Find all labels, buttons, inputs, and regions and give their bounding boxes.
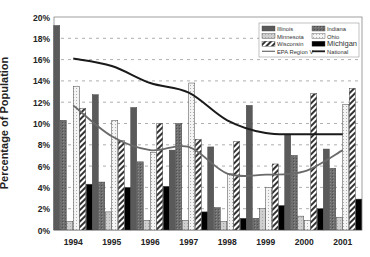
bar-wisconsin [157, 124, 163, 231]
bar-indiana [214, 208, 220, 230]
legend-label: Illinois [277, 26, 293, 32]
bar-illinois [169, 150, 175, 230]
bar-ohio [304, 220, 310, 230]
legend-swatch [262, 26, 275, 31]
bar-indiana [330, 168, 336, 230]
chart: Percentage of Population 0%2%4%6%8%10%12… [0, 0, 370, 257]
bar-minnesota [105, 212, 111, 230]
x-tick-label: 1999 [256, 237, 275, 247]
bar-indiana [137, 162, 143, 230]
y-tick-label: 6% [38, 162, 51, 172]
legend-swatch [262, 41, 275, 46]
bar-michigan [86, 184, 92, 230]
x-tick-label: 2001 [333, 237, 352, 247]
x-tick-label: 1998 [218, 237, 237, 247]
y-tick-label: 4% [38, 183, 51, 193]
bar-michigan [317, 209, 323, 230]
y-tick-label: 14% [33, 76, 50, 86]
bar-ohio [343, 104, 349, 230]
bar-wisconsin [349, 88, 355, 230]
y-tick-label: 2% [38, 204, 51, 214]
bar-wisconsin [234, 142, 240, 230]
bar-wisconsin [118, 141, 124, 230]
bar-ohio [189, 83, 195, 230]
bar-minnesota [144, 220, 150, 230]
bar-minnesota [298, 216, 304, 230]
bar-illinois [54, 26, 60, 230]
bar-indiana [60, 120, 66, 230]
legend-label: Michigan [327, 39, 357, 48]
bar-indiana [291, 155, 297, 230]
bar-wisconsin [311, 94, 317, 230]
legend-swatch [312, 26, 325, 31]
bar-ohio [266, 187, 272, 230]
legend-swatch [312, 34, 325, 39]
y-tick-label: 18% [33, 34, 50, 44]
x-tick-label: 1994 [64, 237, 83, 247]
bar-ohio [227, 174, 233, 230]
legend-swatch [262, 34, 275, 39]
bar-illinois [246, 105, 252, 230]
bar-indiana [99, 182, 105, 230]
legend-swatch [312, 41, 325, 46]
x-tick-label: 1995 [102, 237, 121, 247]
legend-label: Wisconsin [277, 41, 303, 47]
bar-michigan [202, 212, 208, 230]
bar-minnesota [336, 217, 342, 230]
bar-minnesota [182, 220, 188, 230]
bar-wisconsin [80, 109, 86, 230]
y-tick-label: 10% [33, 119, 50, 129]
y-tick-label: 0% [38, 226, 51, 236]
legend-label: Indiana [327, 26, 347, 32]
bar-illinois [285, 134, 291, 230]
bar-indiana [176, 124, 182, 231]
bar-michigan [279, 206, 285, 230]
bar-michigan [356, 199, 362, 230]
y-tick-label: 16% [33, 55, 50, 65]
bar-minnesota [221, 221, 227, 230]
y-tick-label: 12% [33, 98, 50, 108]
y-axis-label: Percentage of Population [0, 57, 10, 190]
y-tick-label: 8% [38, 140, 51, 150]
bar-illinois [92, 95, 98, 230]
legend-label: Minnesota [277, 34, 305, 40]
bar-illinois [131, 108, 137, 230]
bar-minnesota [259, 209, 265, 230]
x-tick-label: 1997 [179, 237, 198, 247]
y-tick-label: 20% [33, 13, 50, 23]
x-tick-label: 1996 [141, 237, 160, 247]
chart-plot: 0%2%4%6%8%10%12%14%16%18%20%199419951996… [0, 0, 370, 257]
bar-michigan [163, 186, 169, 230]
legend-label: National [327, 49, 348, 55]
bar-minnesota [67, 221, 73, 230]
legend-label: EPA Region V [277, 49, 313, 55]
bar-indiana [253, 218, 259, 230]
bar-michigan [125, 187, 131, 230]
x-tick-label: 2000 [295, 237, 314, 247]
bar-ohio [150, 152, 156, 230]
bar-michigan [240, 218, 246, 230]
